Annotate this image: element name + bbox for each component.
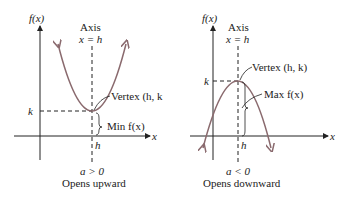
right-caption: Opens downward [203, 177, 280, 189]
vertex-leader [240, 67, 252, 80]
left-caption: Opens upward [62, 177, 126, 189]
right-graph [190, 26, 328, 163]
left-min-label: Min f(x) [107, 120, 145, 132]
right-max-label: Max f(x) [264, 88, 303, 100]
left-condition: a > 0 [80, 165, 104, 177]
right-vertex-label: Vertex (h, k) [252, 61, 307, 73]
right-k-label: k [204, 75, 209, 87]
right-axis-eq: x = h [226, 33, 249, 45]
left-k-label: k [28, 105, 33, 117]
right-axis-title: Axis [228, 21, 249, 33]
left-vertex-label: Vertex (h, k [111, 90, 163, 102]
right-condition: a < 0 [226, 165, 250, 177]
right-y-label: f(x) [202, 12, 217, 24]
left-x-label: x [152, 130, 157, 142]
left-y-label: f(x) [29, 12, 44, 24]
max-brace [242, 82, 248, 136]
left-axis-title: Axis [80, 21, 101, 33]
left-axis-eq: x = h [79, 33, 102, 45]
min-brace [96, 113, 102, 135]
right-h-label: h [241, 139, 247, 151]
left-h-label: h [95, 139, 101, 151]
right-x-label: x [330, 130, 335, 142]
